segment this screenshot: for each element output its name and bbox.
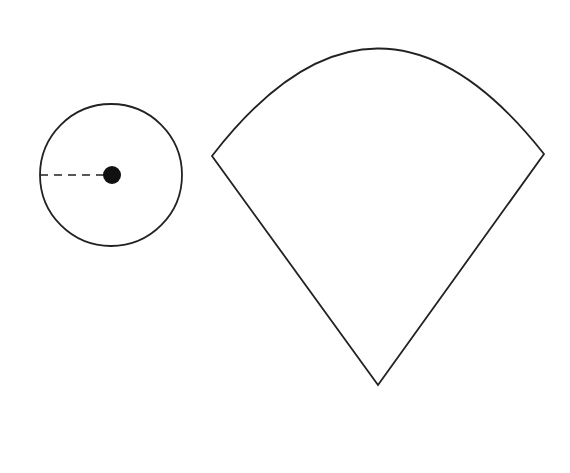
circular-sector: [212, 48, 544, 385]
sector-outline: [212, 48, 544, 385]
diagram-canvas: [0, 0, 570, 473]
circle-with-radius: [40, 104, 182, 246]
center-dot: [103, 166, 121, 184]
